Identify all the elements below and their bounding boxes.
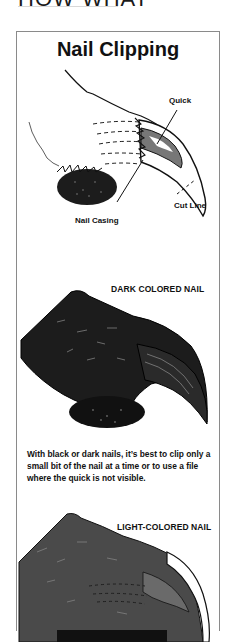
nail-clipping-figure: Nail Clipping Quick [16, 31, 220, 631]
label-cut-line: Cut Line [174, 201, 206, 210]
dark-nail-caption: With black or dark nails, it’s best to c… [27, 448, 217, 484]
light-nail-illustration [17, 502, 221, 642]
dark-nail-illustration [17, 262, 221, 442]
heading-underline [18, 6, 118, 7]
label-nail-casing: Nail Casing [75, 216, 119, 225]
label-quick: Quick [169, 96, 191, 105]
